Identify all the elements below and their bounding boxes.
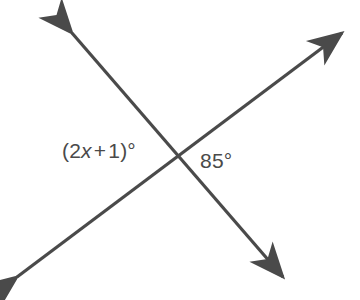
left-coefficient: 2: [69, 139, 81, 162]
angle-label-right: 85°: [200, 150, 232, 171]
left-operator: +: [92, 139, 108, 162]
right-degree-icon: °: [224, 149, 233, 172]
left-constant: 1: [108, 139, 120, 162]
angle-label-left: (2x+1)°: [62, 140, 136, 161]
left-variable: x: [81, 139, 92, 162]
geometry-figure: (2x+1)° 85°: [0, 0, 360, 300]
diagram-canvas: [0, 0, 360, 300]
left-degree-icon: °: [127, 139, 136, 162]
right-value: 85: [200, 149, 224, 172]
